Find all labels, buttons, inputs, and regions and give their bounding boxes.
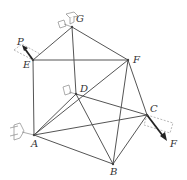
joint-a [33,134,35,136]
truss-members [33,27,147,164]
member-bc [113,115,147,164]
truss-diagram: G E F D A C B P F [0,0,187,180]
load-f-arrow-icon [147,115,167,141]
joint-g [71,26,73,28]
member-db [76,94,113,164]
node-label-f: F [132,54,141,65]
node-labels: G E F D A C B P F [16,13,178,177]
node-label-d: D [79,83,88,94]
joint-c [146,114,148,116]
node-label-g: G [76,13,84,24]
load-label-f: F [169,138,178,149]
node-label-c: C [150,103,158,114]
member-dc [76,94,147,115]
member-gf [72,27,128,60]
load-guide-lines [14,44,173,133]
support-d-icon [63,85,76,95]
joint-f [127,59,129,61]
node-label-b: B [109,166,117,177]
load-label-p: P [16,36,24,47]
support-g-icon [58,12,78,28]
joint-b [112,163,114,165]
joint-d [75,93,77,95]
member-ab [34,135,113,164]
node-label-e: E [22,59,31,70]
node-label-a: A [30,138,38,149]
load-p-arrow-icon [22,45,33,60]
member-ea [33,60,34,135]
member-fb [113,60,128,164]
joint-e [32,59,34,61]
member-fc [128,60,147,115]
member-af [34,60,128,135]
